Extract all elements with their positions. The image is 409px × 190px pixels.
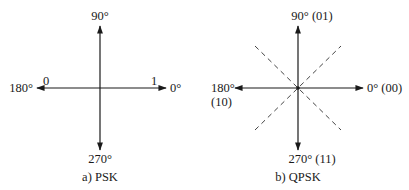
qpsk-label-270: 270° (11): [288, 152, 335, 166]
psk-caption: a) PSK: [82, 170, 118, 184]
qpsk-label-180: 180°: [211, 81, 235, 95]
psk-label-180: 180°: [9, 81, 33, 95]
phase-diagrams: 90° 180° 0° 270° 0 1 a) PSK 90° (01) 180…: [0, 0, 409, 190]
qpsk-origin-dot: [296, 86, 300, 90]
psk-label-90: 90°: [91, 9, 109, 23]
psk-diagram: 90° 180° 0° 270° 0 1 a) PSK: [9, 9, 181, 184]
psk-label-270: 270°: [88, 152, 112, 166]
psk-bit-0: 0: [43, 74, 49, 88]
qpsk-caption: b) QPSK: [275, 170, 321, 184]
psk-bit-1: 1: [151, 74, 157, 88]
qpsk-diagram: 90° (01) 180° (10) 0° (00) 270° (11) b) …: [211, 9, 402, 184]
qpsk-label-0deg: 0° (00): [367, 81, 402, 95]
qpsk-label-90: 90° (01): [291, 9, 332, 23]
qpsk-label-10: (10): [211, 95, 232, 109]
psk-label-0deg: 0°: [170, 81, 181, 95]
